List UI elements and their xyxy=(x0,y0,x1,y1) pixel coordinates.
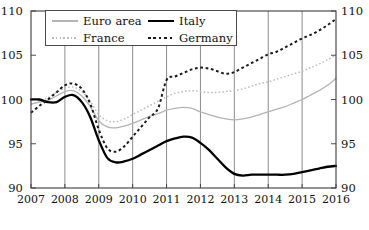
x-axis-label-2015: 2015 xyxy=(283,193,321,206)
x-axis-label-2014: 2014 xyxy=(249,193,287,206)
legend-entry-germany[interactable]: Germany xyxy=(148,30,233,46)
x-axis-label-2010: 2010 xyxy=(114,193,152,206)
legend-swatch-germany-icon xyxy=(148,33,174,44)
x-axis-label-2012: 2012 xyxy=(181,193,219,206)
y-axis-label-left-105: 105 xyxy=(0,48,23,62)
series-line-france xyxy=(31,55,336,122)
legend-entry-euro-area[interactable]: Euro area xyxy=(52,13,142,29)
legend-entry-france[interactable]: France xyxy=(52,30,125,46)
chart-legend: Euro areaItalyFranceGermany xyxy=(45,10,237,46)
y-axis-label-right-110: 110 xyxy=(341,4,363,18)
x-axis-label-2008: 2008 xyxy=(46,193,84,206)
y-axis-label-right-105: 105 xyxy=(341,48,363,62)
x-axis-label-2016: 2016 xyxy=(317,193,355,206)
x-axis-label-2009: 2009 xyxy=(80,193,118,206)
x-axis-label-2011: 2011 xyxy=(148,193,186,206)
y-axis-label-left-110: 110 xyxy=(0,4,23,18)
x-axis-label-2013: 2013 xyxy=(215,193,253,206)
legend-swatch-france-icon xyxy=(52,33,78,44)
x-axis-label-2007: 2007 xyxy=(12,193,50,206)
y-axis-label-left-100: 100 xyxy=(0,93,23,107)
legend-label-france: France xyxy=(83,31,125,45)
chart-figure: 9095100105110 9095100105110 200720082009… xyxy=(0,0,369,230)
legend-label-germany: Germany xyxy=(179,31,233,45)
legend-label-italy: Italy xyxy=(179,14,206,28)
legend-swatch-euro-area-icon xyxy=(52,16,78,27)
y-axis-label-right-95: 95 xyxy=(341,137,356,151)
y-axis-label-left-95: 95 xyxy=(0,137,23,151)
legend-entry-italy[interactable]: Italy xyxy=(148,13,206,29)
y-axis-label-right-100: 100 xyxy=(341,93,363,107)
legend-label-euro-area: Euro area xyxy=(83,14,142,28)
x-axis-ticks xyxy=(31,184,336,188)
legend-swatch-italy-icon xyxy=(148,16,174,27)
